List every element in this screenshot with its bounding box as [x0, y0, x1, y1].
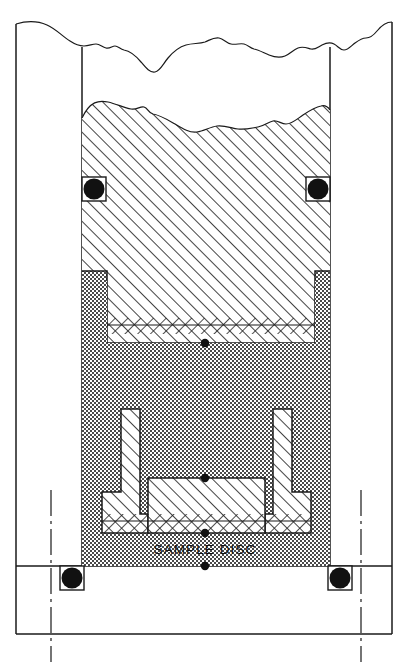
o-ring-lower-right: [328, 566, 352, 590]
sample-disc-block: [148, 478, 265, 533]
o-ring-upper-right: [306, 177, 330, 201]
technical-drawing-canvas: SAMPLE DISC: [0, 0, 411, 672]
axis-dot-1: [201, 339, 209, 347]
axis-dot-2: [201, 474, 209, 482]
axis-dot-3: [201, 529, 209, 537]
sample-disc-cross-section-svg: SAMPLE DISC: [0, 0, 411, 672]
axis-dot-4: [201, 562, 209, 570]
o-ring-upper-left: [82, 177, 106, 201]
o-ring-lower-left: [60, 566, 84, 590]
sample-disc-label: SAMPLE DISC: [154, 542, 257, 557]
central-hatched-plug: [107, 281, 315, 343]
